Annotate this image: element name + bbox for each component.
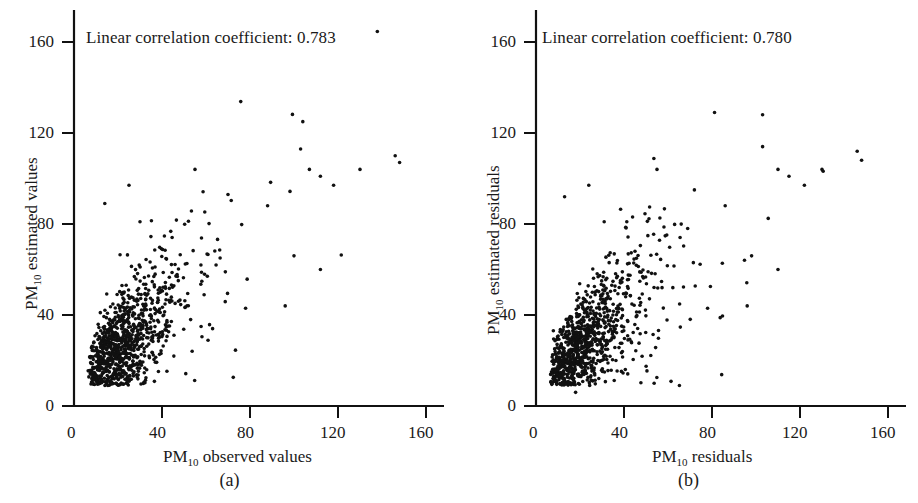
y-tick-label-160-b: 160 bbox=[472, 32, 516, 52]
y-tick-label-120-b: 120 bbox=[472, 123, 516, 143]
y-ticks-b bbox=[524, 42, 536, 406]
y-axis-title-a: PM10 estimated values bbox=[22, 157, 43, 310]
x-axis-title-prefix-b: PM bbox=[652, 447, 677, 466]
y-tick-label-0-b: 0 bbox=[472, 396, 516, 416]
figure-container: Linear correlation coefficient: 0.783 16… bbox=[0, 0, 918, 503]
x-tick-label-0-a: 0 bbox=[67, 423, 76, 443]
y-axis-title-prefix-b: PM bbox=[484, 310, 503, 335]
y-axis-title-suffix-a: estimated values bbox=[22, 157, 41, 274]
x-tick-label-0-b: 0 bbox=[529, 423, 538, 443]
y-tick-label-0-a: 0 bbox=[10, 396, 54, 416]
y-axis-title-sub-a: 10 bbox=[31, 274, 43, 285]
x-tick-label-80-a: 80 bbox=[237, 423, 254, 443]
y-tick-label-120-a: 120 bbox=[10, 123, 54, 143]
panel-a: Linear correlation coefficient: 0.783 16… bbox=[0, 0, 459, 503]
y-tick-label-160-a: 160 bbox=[10, 32, 54, 52]
x-tick-label-40-a: 40 bbox=[149, 423, 166, 443]
x-tick-label-160-b: 160 bbox=[870, 423, 896, 443]
x-axis-title-suffix-b: residuals bbox=[688, 447, 753, 466]
x-tick-label-40-b: 40 bbox=[611, 423, 628, 443]
correlation-annotation-b: Linear correlation coefficient: 0.780 bbox=[542, 28, 792, 48]
panel-b: Linear correlation coefficient: 0.780 16… bbox=[459, 0, 918, 503]
scatter-plot-b bbox=[459, 0, 918, 503]
panel-caption-a: (a) bbox=[0, 470, 459, 491]
x-axis-title-sub-a: 10 bbox=[188, 456, 199, 468]
y-axis-title-suffix-b: estimated residuals bbox=[484, 165, 503, 299]
y-axis-title-sub-b: 10 bbox=[493, 299, 505, 310]
correlation-annotation-a: Linear correlation coefficient: 0.783 bbox=[86, 28, 336, 48]
x-axis-title-b: PM10 residuals bbox=[652, 447, 752, 468]
y-axis-title-prefix-a: PM bbox=[22, 285, 41, 310]
x-axis-title-suffix-a: observed values bbox=[199, 447, 312, 466]
y-axis-title-b: PM10 estimated residuals bbox=[484, 165, 505, 335]
x-axis-title-sub-b: 10 bbox=[677, 456, 688, 468]
x-axis-title-prefix-a: PM bbox=[163, 447, 188, 466]
data-points-b bbox=[549, 111, 864, 394]
data-points-a bbox=[86, 30, 401, 387]
y-ticks-a bbox=[62, 42, 74, 406]
x-tick-label-120-b: 120 bbox=[782, 423, 808, 443]
panel-caption-b: (b) bbox=[459, 470, 918, 491]
x-tick-label-160-a: 160 bbox=[408, 423, 434, 443]
x-tick-label-80-b: 80 bbox=[699, 423, 716, 443]
x-tick-label-120-a: 120 bbox=[320, 423, 346, 443]
x-axis-title-a: PM10 observed values bbox=[163, 447, 312, 468]
